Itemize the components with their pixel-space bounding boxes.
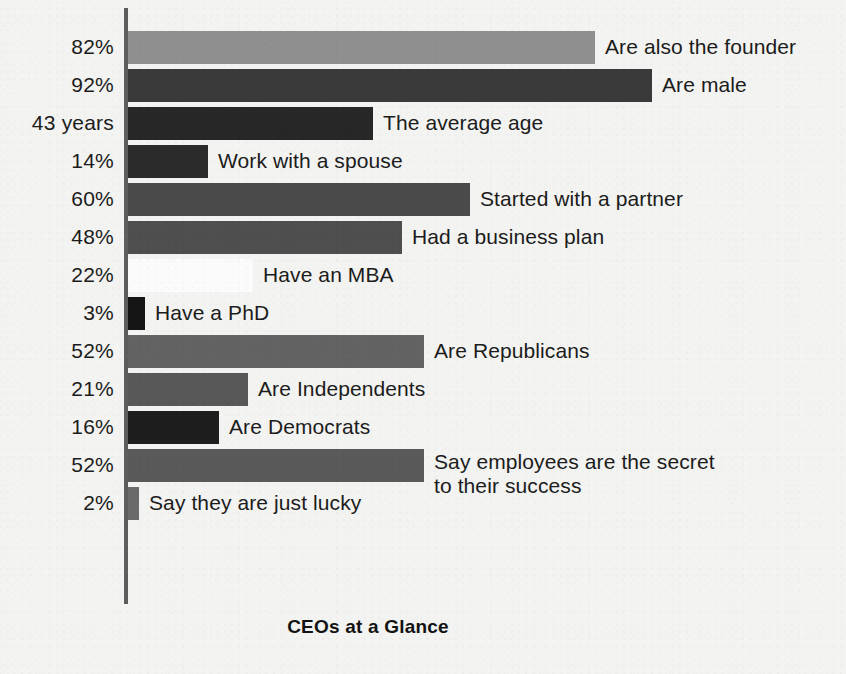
bar-category-label: Are Independents	[258, 370, 425, 408]
bar-value-label: 21%	[71, 370, 114, 408]
bar-row: 43 yearsThe average age	[0, 104, 846, 142]
bar-category-label: Say they are just lucky	[149, 484, 361, 522]
bar-category-label-line1: Started with a partner	[480, 187, 683, 211]
bar-row: 48%Had a business plan	[0, 218, 846, 256]
bar	[128, 411, 219, 444]
bar-category-label-line1: The average age	[383, 111, 543, 135]
bar-value-label: 52%	[71, 446, 114, 484]
bar	[128, 69, 652, 102]
bar	[128, 449, 424, 482]
bar-value-label: 82%	[71, 28, 114, 66]
bar-row: 52%Are Republicans	[0, 332, 846, 370]
bar-category-label-line1: Work with a spouse	[218, 149, 403, 173]
bar-category-label-line1: Are also the founder	[605, 35, 796, 59]
bar	[128, 183, 470, 216]
bar-value-label: 92%	[71, 66, 114, 104]
bar-value-label: 3%	[83, 294, 114, 332]
bar-value-label: 16%	[71, 408, 114, 446]
bar-value-label: 14%	[71, 142, 114, 180]
bar	[128, 145, 208, 178]
bar	[128, 31, 595, 64]
bar-category-label: Are Republicans	[434, 332, 590, 370]
bar-category-label-line1: Are male	[662, 73, 747, 97]
bar-category-label: Started with a partner	[480, 180, 683, 218]
bar-category-label-line1: Say they are just lucky	[149, 491, 361, 515]
bar-row: 52%Say employees are the secretto their …	[0, 446, 846, 484]
bar-value-label: 22%	[71, 256, 114, 294]
bar-value-label: 52%	[71, 332, 114, 370]
bar-value-label: 60%	[71, 180, 114, 218]
bar-category-label-line1: Have an MBA	[263, 263, 394, 287]
bar-row: 92%Are male	[0, 66, 846, 104]
bar-row: 82%Are also the founder	[0, 28, 846, 66]
bar-category-label-line1: Say employees are the secret	[434, 450, 715, 474]
bar-row: 2%Say they are just lucky	[0, 484, 846, 522]
bar-category-label: Are male	[662, 66, 747, 104]
bar-category-label-line1: Had a business plan	[412, 225, 604, 249]
bar	[128, 221, 402, 254]
bar-value-label: 48%	[71, 218, 114, 256]
bar-row: 14%Work with a spouse	[0, 142, 846, 180]
bar	[128, 297, 145, 330]
bar	[128, 487, 139, 520]
bar-category-label: The average age	[383, 104, 543, 142]
bar-category-label: Work with a spouse	[218, 142, 403, 180]
bar-row: 3%Have a PhD	[0, 294, 846, 332]
bar	[128, 373, 248, 406]
bar-row: 16%Are Democrats	[0, 408, 846, 446]
bar-category-label: Had a business plan	[412, 218, 604, 256]
bar-category-label: Are Democrats	[229, 408, 370, 446]
bar-category-label: Have an MBA	[263, 256, 394, 294]
bar-category-label-line1: Are Republicans	[434, 339, 590, 363]
ceos-at-a-glance-bar-chart: 82%Are also the founder92%Are male43 yea…	[0, 0, 846, 674]
bar-category-label: Have a PhD	[155, 294, 269, 332]
bar	[128, 259, 253, 292]
bar-category-label: Are also the founder	[605, 28, 796, 66]
bar-value-label: 2%	[83, 484, 114, 522]
bar	[128, 335, 424, 368]
bar	[128, 107, 373, 140]
bar-category-label-line1: Are Democrats	[229, 415, 370, 439]
bar-row: 60%Started with a partner	[0, 180, 846, 218]
chart-title: CEOs at a Glance	[0, 616, 736, 638]
bar-category-label-line1: Have a PhD	[155, 301, 269, 325]
bar-row: 21%Are Independents	[0, 370, 846, 408]
bar-category-label-line1: Are Independents	[258, 377, 425, 401]
chart-page: 82%Are also the founder92%Are male43 yea…	[0, 0, 846, 674]
bar-row: 22%Have an MBA	[0, 256, 846, 294]
bar-value-label: 43 years	[32, 104, 114, 142]
